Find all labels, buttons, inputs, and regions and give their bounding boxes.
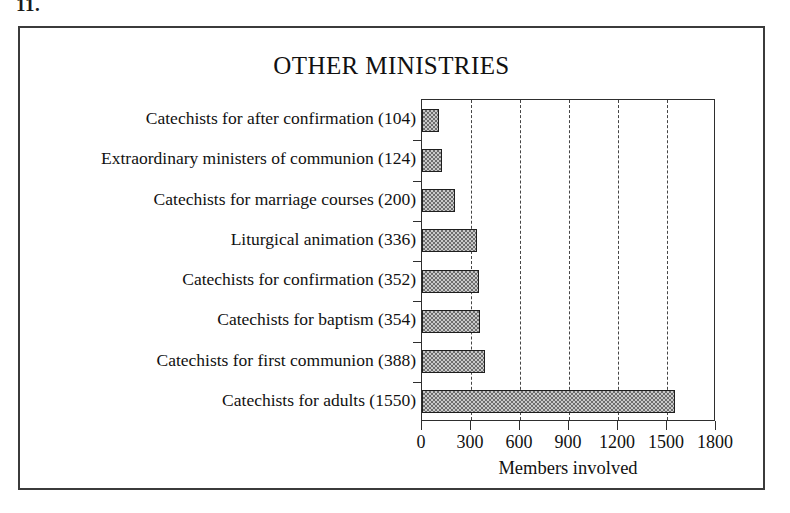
bar-row[interactable] (422, 382, 714, 422)
x-axis-tick-label: 1200 (599, 432, 635, 453)
y-axis-tick (413, 140, 422, 141)
y-axis-tick (413, 221, 422, 222)
plot-area (421, 99, 715, 421)
y-axis-category-label: Catechists for first communion (388) (156, 352, 416, 370)
bar-row[interactable] (422, 301, 714, 341)
y-axis-category-label: Catechists for after confirmation (104) (146, 110, 416, 128)
x-axis-tick (519, 421, 520, 430)
bar[interactable] (422, 149, 442, 172)
y-axis-category-label: Catechists for baptism (354) (217, 311, 416, 329)
y-axis-tick (413, 342, 422, 343)
y-axis-tick (413, 301, 422, 302)
figure-frame: OTHER MINISTRIES Catechists for after co… (18, 26, 765, 490)
figure-number-caption: 11. (16, 0, 40, 16)
x-axis-tick (715, 421, 716, 430)
bar[interactable] (422, 109, 439, 132)
bar[interactable] (422, 350, 485, 373)
bar[interactable] (422, 189, 455, 212)
bar-row[interactable] (422, 181, 714, 221)
x-axis-tick-label: 300 (457, 432, 484, 453)
bar[interactable] (422, 310, 480, 333)
bar-row[interactable] (422, 342, 714, 382)
x-axis-tick (470, 421, 471, 430)
x-axis-tick-label: 0 (417, 432, 426, 453)
y-axis-category-label: Catechists for marriage courses (200) (154, 191, 416, 209)
y-axis-tick (413, 261, 422, 262)
x-axis-tick-label: 900 (555, 432, 582, 453)
bar-row[interactable] (422, 100, 714, 140)
x-axis-tick-label: 1800 (697, 432, 733, 453)
y-axis-category-label: Catechists for confirmation (352) (182, 271, 416, 289)
bar-row[interactable] (422, 140, 714, 180)
x-axis-tick-label: 1500 (648, 432, 684, 453)
y-axis-tick (413, 181, 422, 182)
x-axis-tick (666, 421, 667, 430)
x-axis-ticks (421, 421, 715, 432)
bar[interactable] (422, 270, 479, 293)
bar[interactable] (422, 390, 675, 413)
y-axis-category-label: Extraordinary ministers of communion (12… (101, 150, 416, 168)
y-axis-category-label: Catechists for adults (1550) (222, 392, 416, 410)
x-axis-tick-labels: 0300600900120015001800 (421, 432, 715, 456)
chart-title: OTHER MINISTRIES (20, 52, 763, 80)
bar-row[interactable] (422, 221, 714, 261)
x-axis-title: Members involved (421, 458, 715, 479)
bars-layer (422, 100, 714, 420)
y-axis-tick (413, 382, 422, 383)
x-axis-tick-label: 600 (506, 432, 533, 453)
x-axis-tick (617, 421, 618, 430)
x-axis-tick (568, 421, 569, 430)
y-axis-category-labels: Catechists for after confirmation (104)E… (60, 99, 416, 421)
y-axis-category-label: Liturgical animation (336) (231, 231, 416, 249)
x-axis-tick (421, 421, 422, 430)
bar-row[interactable] (422, 261, 714, 301)
bar[interactable] (422, 229, 477, 252)
